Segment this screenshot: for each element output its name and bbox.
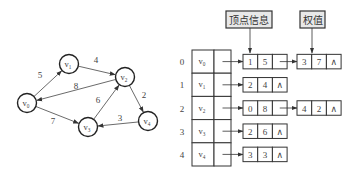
null-pointer-symbol: ∧ — [276, 80, 283, 90]
vertex-label-subscript: 0 — [27, 103, 30, 109]
adjvex-value: 4 — [302, 104, 307, 114]
adjvex-value: 3 — [302, 57, 307, 67]
table-vertex-label-subscript: 1 — [203, 84, 206, 90]
adjvex-value: 1 — [248, 57, 253, 67]
vertex-label-subscript: 3 — [88, 127, 91, 133]
table-vertex-label-subscript: 0 — [203, 61, 206, 67]
weight-value: 5 — [263, 57, 268, 67]
weight-value: 6 — [263, 127, 268, 137]
weight-callout-label: 权值 — [303, 14, 323, 26]
edge-weight-label: 7 — [51, 116, 56, 126]
vertex-info-callout-label: 顶点信息 — [229, 14, 269, 26]
edge-weight-label: 4 — [94, 55, 99, 65]
weight-value: 7 — [317, 57, 322, 67]
edge-weight-label: 6 — [96, 95, 101, 105]
weight-value: 4 — [263, 80, 268, 90]
vertex-label-subscript: 2 — [125, 77, 128, 83]
row-index: 3 — [180, 127, 185, 137]
vertex-label-subscript: 1 — [69, 64, 72, 70]
edge-weight-label: 3 — [118, 113, 123, 123]
adjacency-list-diagram: 5487623v0v1v2v3v4 顶点信息权值 0v01v12v23v34v4… — [0, 0, 353, 174]
directed-graph: 5487623v0v1v2v3v4 — [18, 55, 158, 137]
row-index: 4 — [180, 150, 185, 160]
table-vertex-label-subscript: 3 — [203, 131, 206, 137]
adjvex-value: 0 — [248, 104, 253, 114]
adjvex-value: 2 — [248, 80, 253, 90]
edge-arrow — [78, 66, 115, 75]
null-pointer-symbol: ∧ — [276, 150, 283, 160]
vertex-label-subscript: 4 — [148, 121, 151, 127]
adjvex-value: 2 — [248, 127, 253, 137]
null-pointer-symbol: ∧ — [330, 57, 337, 67]
null-pointer-symbol: ∧ — [330, 104, 337, 114]
edge-weight-label: 5 — [38, 70, 43, 80]
weight-value: 8 — [263, 104, 268, 114]
row-index: 1 — [180, 80, 185, 90]
edge-arrow — [36, 106, 79, 123]
weight-value: 2 — [317, 104, 322, 114]
null-pointer-symbol: ∧ — [276, 127, 283, 137]
table-vertex-label-subscript: 4 — [203, 154, 206, 160]
callout-labels: 顶点信息权值 — [226, 11, 325, 53]
row-index: 0 — [180, 57, 185, 67]
adjvex-value: 3 — [248, 150, 253, 160]
table-vertex-label-subscript: 2 — [203, 108, 206, 114]
row-index: 2 — [180, 104, 185, 114]
edge-lists: 1537∧24∧0842∧26∧33∧ — [223, 54, 342, 161]
edge-weight-label: 2 — [142, 90, 147, 100]
edge-weight-label: 8 — [74, 81, 79, 91]
weight-value: 3 — [263, 150, 268, 160]
